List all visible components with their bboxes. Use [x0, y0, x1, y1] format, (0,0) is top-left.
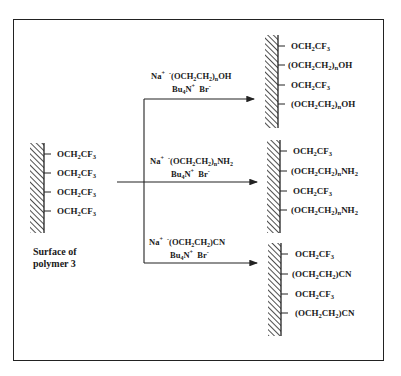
product-surface-hydroxyl — [265, 35, 285, 128]
reagent-3-line-2: Bu4N+ Br- — [170, 250, 209, 260]
reagent-2-line-1: Na+ -(OCH2CH2)nNH2 — [150, 156, 233, 166]
reagent-1-line-1: Na+ -(OCH2CH2)nOH — [151, 71, 231, 81]
product-1-group-3: OCH2CF3 — [291, 80, 330, 90]
product-surface-nitrile — [268, 243, 288, 336]
product-2-group-3: OCH2CF3 — [293, 186, 332, 196]
product-3-group-3: OCH2CF3 — [295, 289, 334, 299]
product-3-group-4: (OCH2CH2)CN — [295, 308, 355, 318]
product-surface-amine — [267, 140, 287, 233]
caption-line-2: polymer 3 — [33, 258, 77, 270]
product-3-group-2: (OCH2CH2)CN — [292, 269, 352, 279]
reagent-1-line-2: Bu4N+ Br- — [172, 84, 211, 94]
product-2-group-2: (OCH2CH2)nNH2 — [291, 166, 358, 176]
reagent-3-line-1: Na+ -(OCH2CH2)CN — [149, 237, 225, 247]
product-1-group-2: (OCH2CH2)nOH — [288, 60, 352, 70]
product-1-group-4: (OCH2CH2)nOH — [291, 99, 355, 109]
caption-line-1: Surface of — [33, 246, 77, 258]
product-1-group-1: OCH2CF3 — [291, 41, 330, 51]
start-group-1: OCH2CF3 — [57, 149, 96, 159]
product-2-group-1: OCH2CF3 — [293, 146, 332, 156]
product-3-group-1: OCH2CF3 — [295, 249, 334, 259]
start-group-4: OCH2CF3 — [57, 206, 96, 216]
starting-polymer-surface — [30, 143, 51, 233]
reagent-2-line-2: Bu4N+ Br- — [171, 169, 210, 179]
product-2-group-4: (OCH2CH2)nNH2 — [291, 205, 358, 215]
start-group-3: OCH2CF3 — [57, 187, 96, 197]
starting-surface-caption: Surface of polymer 3 — [33, 246, 77, 270]
start-group-2: OCH2CF3 — [57, 168, 96, 178]
